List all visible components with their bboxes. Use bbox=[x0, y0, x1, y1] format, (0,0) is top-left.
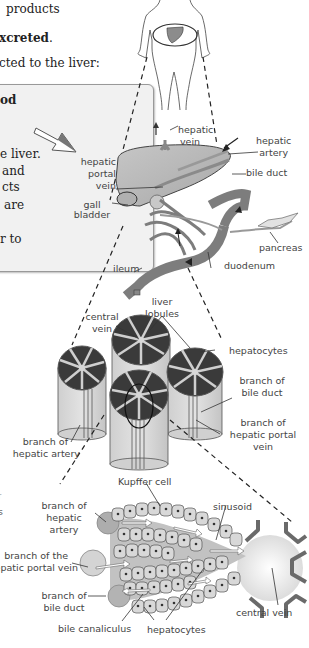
label-branch-hepatic-portal-vein-lobule: branch ofhepatic portalvein bbox=[222, 417, 304, 453]
label-branch-hepatic-artery-sinusoid: branch ofhepaticartery bbox=[36, 500, 92, 536]
label-pancreas: pancreas bbox=[259, 242, 302, 254]
human-body-figure bbox=[138, 0, 210, 110]
pointer-arrow-icon bbox=[34, 128, 76, 152]
label-central-vein-sinusoid: central vein bbox=[236, 607, 292, 619]
label-bile-canaliculus: bile canaliculus bbox=[58, 623, 131, 635]
side-fragment-1: r bbox=[0, 492, 1, 502]
label-hepatocytes-sinusoid: hepatocytes bbox=[147, 624, 206, 636]
label-hepatic-artery: hepaticartery bbox=[256, 135, 291, 159]
label-hepatocytes-lobule: hepatocytes bbox=[229, 345, 288, 357]
sinusoid-diagram bbox=[80, 502, 306, 618]
label-ileum: ileum bbox=[113, 263, 139, 275]
label-branch-bile-duct-lobule: branch ofbile duct bbox=[234, 375, 290, 399]
label-sinusoid: sinusoid bbox=[213, 501, 252, 513]
label-central-vein-lobule: centralvein bbox=[80, 311, 124, 335]
liver-in-body-icon bbox=[167, 27, 183, 43]
label-duodenum: duodenum bbox=[224, 260, 275, 272]
label-bile-duct: bile duct bbox=[246, 167, 287, 179]
label-liver-lobules: liverlobules bbox=[142, 296, 182, 320]
side-fragment-2: s bbox=[0, 506, 3, 518]
liver-lobules-cluster bbox=[58, 315, 223, 470]
label-kupffer-cell: Kupffer cell bbox=[118, 476, 171, 488]
label-gall-bladder: gallbladder bbox=[72, 199, 112, 221]
label-hepatic-vein: hepaticvein bbox=[178, 124, 213, 148]
label-branch-hepatic-portal-vein-sinusoid: branch of thehepatic portal vein bbox=[0, 550, 78, 574]
label-branch-bile-duct-sinusoid: branch ofbile duct bbox=[38, 590, 90, 614]
label-branch-hepatic-artery-lobule: branch ofhepatic artery bbox=[0, 436, 80, 460]
label-hepatic-portal-vein: hepaticportalvein bbox=[76, 156, 116, 192]
